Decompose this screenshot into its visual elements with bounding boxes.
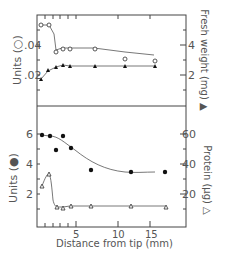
series-units-open-circle (39, 23, 157, 63)
bottom-right-tick-60: 60 (182, 128, 196, 141)
bottom-left-axis-label: Units (●) (7, 153, 20, 203)
top-right-ticks (180, 30, 186, 90)
x-axis-label: Distance from tip (mm) (56, 238, 173, 249)
top-left-tick-02: .02 (24, 69, 42, 82)
bottom-left-tick-6: 6 (26, 128, 33, 141)
top-right-tick-4: 4 (188, 39, 195, 52)
top-edge-ticks (45, 15, 150, 19)
bottom-left-tick-2: 2 (26, 188, 33, 201)
figure: .04 .02 4 2 6 4 2 60 40 20 5 10 15 Dista… (0, 0, 225, 261)
top-right-tick-2: 2 (188, 69, 195, 82)
bottom-right-tick-20: 20 (182, 188, 196, 201)
top-left-axis-label: Units (○) (11, 35, 24, 85)
series-protein-open-triangle (40, 172, 168, 210)
series-fresh-weight-triangle (39, 63, 157, 81)
plot-frame (37, 15, 186, 227)
top-right-axis-label: Fresh weight (mg) ▲ (199, 9, 210, 111)
x-axis-ticks (45, 221, 150, 227)
top-left-tick-04: .04 (24, 39, 42, 52)
bottom-right-tick-40: 40 (182, 158, 196, 171)
bottom-left-tick-4: 4 (26, 158, 33, 171)
series-units-filled-circle (40, 133, 167, 174)
bottom-right-axis-label: Protein (µg) △ (202, 145, 213, 215)
